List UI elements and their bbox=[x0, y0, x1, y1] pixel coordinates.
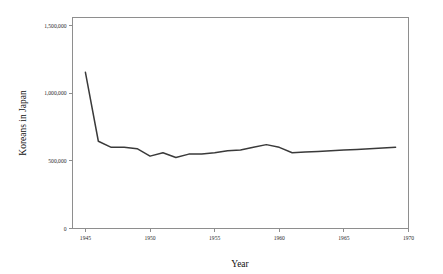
series-group bbox=[85, 72, 395, 157]
x-axis-tick-label: 1950 bbox=[144, 235, 155, 241]
line-chart-canvas: 0500,0001,000,0001,500,000 1945195019551… bbox=[0, 0, 443, 274]
y-axis-tick-label: 0 bbox=[64, 226, 67, 232]
y-axis-tick-label: 500,000 bbox=[48, 158, 66, 164]
y-axis-title: Koreans in Japan bbox=[18, 90, 28, 156]
x-axis-tick-label: 1960 bbox=[274, 235, 285, 241]
x-axis: 194519501955196019651970 bbox=[80, 229, 414, 242]
plot-frame bbox=[73, 18, 409, 229]
y-axis-tick-label: 1,500,000 bbox=[44, 23, 67, 29]
y-axis: 0500,0001,000,0001,500,000 bbox=[44, 23, 72, 232]
x-axis-tick-label: 1955 bbox=[209, 235, 220, 241]
y-axis-tick-label: 1,000,000 bbox=[44, 90, 67, 96]
chart-figure: 0500,0001,000,0001,500,000 1945195019551… bbox=[0, 0, 443, 274]
data-line-koreans-in-japan bbox=[85, 72, 395, 157]
x-axis-tick-label: 1970 bbox=[403, 235, 414, 241]
x-axis-title: Year bbox=[231, 259, 249, 269]
x-axis-tick-label: 1945 bbox=[80, 235, 91, 241]
x-axis-tick-label: 1965 bbox=[338, 235, 349, 241]
